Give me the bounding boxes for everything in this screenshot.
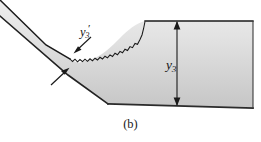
water-fill — [0, 0, 253, 108]
figure-container: y3′ y3 (b) — [0, 0, 261, 142]
water-body — [0, 0, 253, 108]
chute-water-surface — [0, 0, 70, 59]
label-subcritical-depth: y3 — [166, 58, 176, 74]
label-supercritical-depth: y3′ — [80, 23, 90, 40]
label-y3-prime-mark: ′ — [88, 22, 90, 34]
figure-caption: (b) — [0, 117, 261, 132]
label-y3-subscript: 3 — [172, 64, 177, 74]
leader-arrow-chute-floor — [51, 68, 70, 85]
